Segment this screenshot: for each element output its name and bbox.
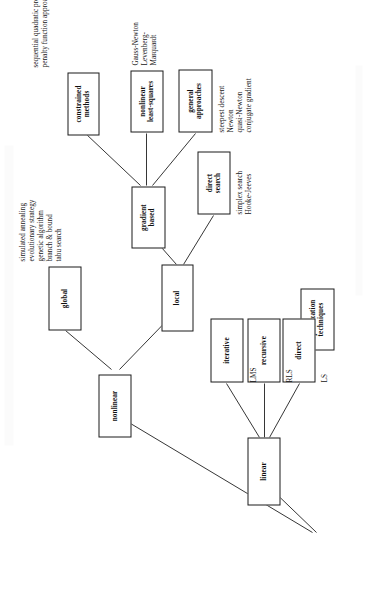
node-global[interactable]: global (48, 266, 81, 330)
leaf-global-methods: simulated annealing evolutionary strateg… (18, 131, 63, 261)
edge-local-dirsearch (183, 215, 213, 264)
tree-diagram-canvas: optimization techniques linear nonlinear… (0, 0, 377, 595)
node-local[interactable]: local (161, 264, 193, 331)
edge-grad-general (152, 133, 195, 185)
node-nonlinear-least-squares[interactable]: nonlinear least-squares (130, 70, 163, 132)
edge-grad-constrained (85, 133, 140, 185)
scan-artifact-left (355, 65, 362, 295)
node-linear-iterative[interactable]: iterative (210, 318, 243, 382)
leaf-nonlinear-least-squares-methods: Gauss-Newton Levenberg- Marquardt (131, 0, 158, 65)
edge-linear-direct (269, 383, 299, 437)
leaf-linear-direct-ls: LS (320, 312, 329, 382)
scan-artifact-top (4, 145, 13, 445)
node-gradient-based[interactable]: gradient based (131, 186, 165, 248)
node-linear[interactable]: linear (247, 437, 280, 505)
node-nonlinear[interactable]: nonlinear (98, 374, 131, 437)
edge-root-nonlinear (115, 414, 312, 532)
edge-nonlinear-global (65, 330, 111, 369)
leaf-general-approaches-methods: steepest descent Newton quasi-Newton con… (217, 12, 253, 132)
node-general-approaches[interactable]: general approaches (178, 69, 212, 132)
node-constrained-methods[interactable]: constrained methods (67, 72, 99, 135)
leaf-linear-recursive-rls: RLS (285, 312, 294, 382)
leaf-constrained-methods-list: sequential quadratic programming penalty… (31, 0, 49, 67)
node-direct-search[interactable]: direct search (197, 151, 230, 214)
edge-linear-iterative (226, 383, 259, 437)
leaf-linear-iterative-lms: LMS (249, 312, 258, 382)
